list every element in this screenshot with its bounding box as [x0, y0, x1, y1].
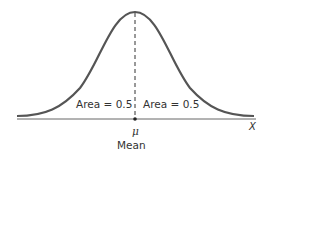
mean-point	[133, 117, 137, 121]
right-area-label: Area = 0.5	[143, 99, 199, 110]
x-axis-label: X	[249, 122, 256, 132]
mean-symbol: μ	[132, 126, 139, 137]
mean-label: Mean	[117, 140, 146, 151]
left-area-label: Area = 0.5	[76, 99, 132, 110]
